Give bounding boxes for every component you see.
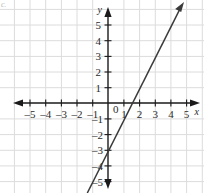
x-tick-label: 1 [121,108,127,120]
x-tick-label: 2 [137,108,143,120]
line-arrow-end [175,2,184,12]
x-tick-label: –2 [71,108,83,120]
origin-label: 0 [113,103,119,115]
y-tick-label: –2 [91,129,103,141]
y-axis-label: y [97,4,103,15]
y-tick-label: 5 [96,19,102,31]
x-axis-label: x [194,106,200,117]
y-tick-label: 2 [96,66,102,78]
x-tick-label: –4 [39,108,52,120]
y-tick-label: 1 [96,82,102,94]
y-axis [104,7,111,189]
graph-figure: c. [0,0,204,193]
y-axis-up-arrow [104,7,111,17]
y-tick-label: 3 [96,50,102,62]
x-tick-label: –3 [55,108,68,120]
y-tick-label: 4 [96,35,102,47]
x-tick-label: 5 [184,108,190,120]
x-tick-label: –5 [24,108,37,120]
x-tick-label: 3 [153,108,159,120]
coordinate-plane: –5 –4 –3 –2 –1 1 2 3 4 5 5 4 3 2 1 –1 –2… [0,0,204,193]
x-axis [13,99,200,106]
plotted-line [87,2,184,193]
y-tick-label: –1 [91,113,103,125]
x-tick-label: 4 [168,108,174,120]
y-tick-label: –3 [91,144,104,156]
y-axis-down-arrow [104,179,111,189]
x-tick-labels: –5 –4 –3 –2 –1 1 2 3 4 5 [24,108,190,120]
